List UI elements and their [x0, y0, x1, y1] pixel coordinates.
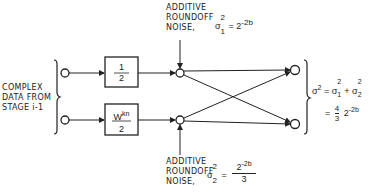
superscript: 2 [318, 84, 322, 91]
box-numerator: 1 [105, 62, 138, 73]
subscript: 2 [213, 176, 217, 185]
top-noise-label: ADDITIVE ROUNDOFF NOISE, [166, 3, 214, 33]
input-label-line: COMPLEX [2, 83, 51, 93]
exponent: -2b [241, 18, 253, 27]
superscript: 2 [221, 13, 225, 22]
twiddle-exponent: kn [122, 110, 129, 117]
scale-box-label: 1 2 [105, 62, 138, 84]
subscript: 2 [358, 91, 362, 98]
subscript: 1 [337, 91, 341, 98]
input-node-top [61, 69, 69, 77]
equals: = [324, 86, 329, 96]
input-label-line: DATA FROM [2, 93, 51, 103]
noise-label-line: ADDITIVE [166, 3, 214, 13]
box-denominator: 2 [105, 73, 138, 84]
bottom-noise-formula: σ22= [207, 170, 227, 180]
plus: + [344, 86, 349, 96]
noise-label-line: ADDITIVE [166, 157, 214, 167]
sum-node-top [176, 69, 184, 77]
noise-label-line: ROUNDOFF [166, 13, 214, 23]
input-label-line: STAGE i-1 [2, 103, 51, 113]
input-label: COMPLEX DATA FROM STAGE i-1 [2, 83, 51, 113]
numerator-exponent: -2b [241, 160, 251, 167]
denominator: 3 [335, 114, 339, 123]
twiddle-box-label: Wkn 2 [105, 108, 138, 135]
equals: = [325, 108, 330, 118]
output-formula-line2: = 4 3 2-2b [325, 104, 359, 123]
superscript: 2 [213, 162, 217, 171]
superscript: 2 [358, 78, 362, 85]
sum-node-bottom [176, 116, 184, 124]
input-brace [54, 60, 60, 134]
superscript: 2 [337, 78, 341, 85]
bottom-noise-fraction: 2-2b 3 [232, 158, 256, 185]
output-formula-line1: σ2 = σ21+ σ22 [312, 84, 358, 96]
rhs: = 2 [229, 21, 242, 31]
output-brace [304, 60, 310, 134]
noise-label-line: NOISE, [166, 23, 214, 33]
twiddle-base: W [114, 112, 123, 122]
denominator: 3 [232, 174, 256, 185]
numerator: 4 [335, 104, 339, 114]
input-node-bottom [61, 116, 69, 124]
top-noise-formula: σ21= 2-2b [215, 18, 253, 31]
box-denominator: 2 [105, 123, 138, 135]
output-node-top [291, 66, 300, 75]
exponent: -2b [349, 106, 359, 113]
subscript: 1 [221, 27, 225, 36]
output-node-bottom [291, 120, 300, 129]
equals: = [222, 170, 227, 180]
